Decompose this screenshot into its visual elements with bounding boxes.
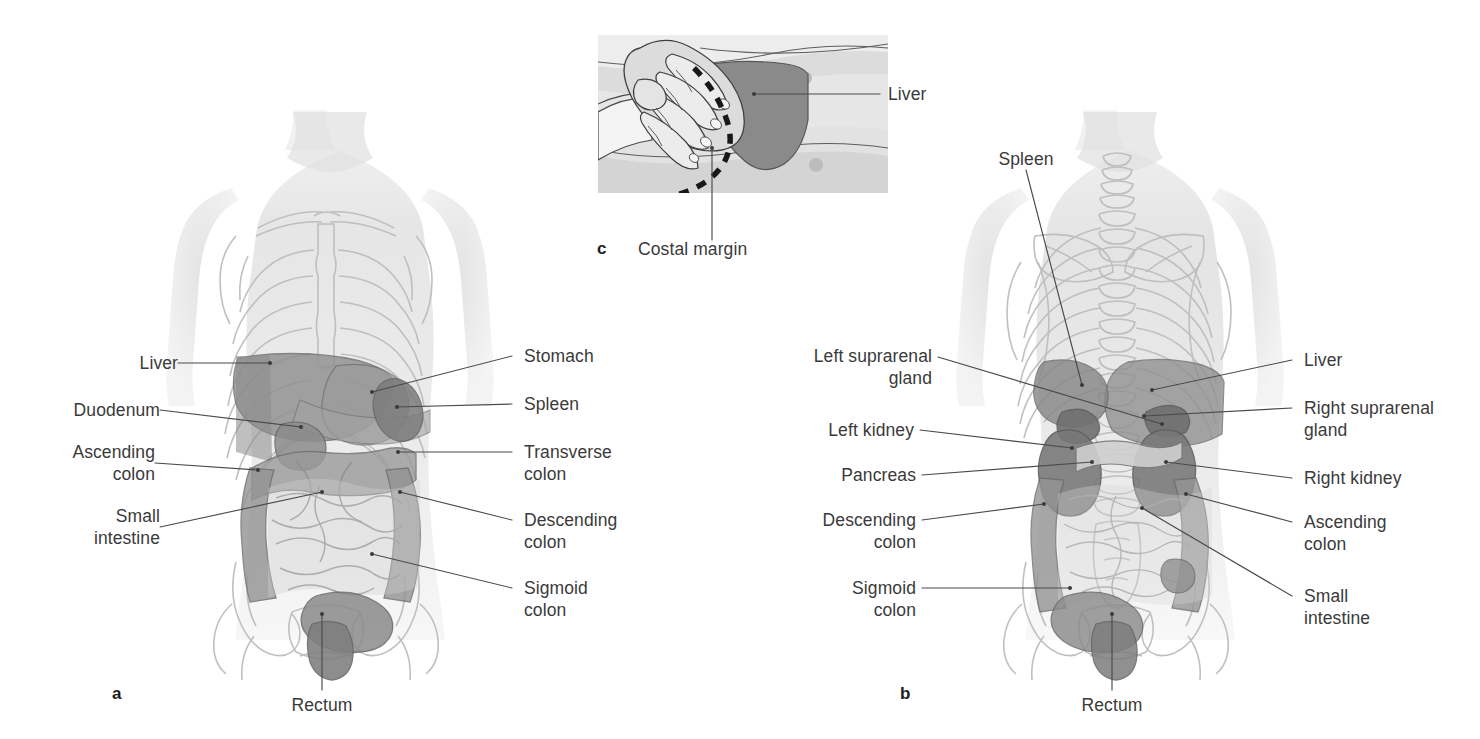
panel-letter-a: a [112,684,121,704]
panel-a-artwork [166,110,493,680]
label-rectum-b: Rectum [1062,694,1162,716]
label-costal-margin-c: Costal margin [638,238,838,260]
label-small-intestine-b: Small intestine [1304,585,1479,629]
panel-letter-c: c [597,239,606,259]
label-descending-colon-a: Descending colon [524,509,704,553]
label-duodenum-a: Duodenum [0,399,160,421]
label-right-kidney-b: Right kidney [1304,467,1479,489]
label-descending-colon-b: Descending colon [716,509,916,553]
label-pancreas-b: Pancreas [716,464,916,486]
label-rectum-a: Rectum [272,694,372,716]
label-sigmoid-colon-b: Sigmoid colon [716,577,916,621]
label-ascending-colon-b: Ascending colon [1304,511,1479,555]
panel-c-artwork [598,35,888,196]
label-liver-a: Liver [58,352,178,374]
panel-b-artwork [956,110,1283,680]
label-liver-b: Liver [1304,349,1474,371]
label-small-intestine-a: Small intestine [0,505,160,549]
label-left-suprarenal-gland-b: Left suprarenal gland [732,345,932,389]
label-spleen-b: Spleen [966,148,1086,170]
anatomy-figure: Liver Duodenum Ascending colon Small int… [0,0,1480,739]
label-right-suprarenal-gland-b: Right suprarenal gland [1304,397,1479,441]
label-sigmoid-colon-a: Sigmoid colon [524,577,694,621]
label-left-kidney-b: Left kidney [714,419,914,441]
label-stomach-a: Stomach [524,345,684,367]
label-liver-c: Liver [888,83,1008,105]
label-ascending-colon-a: Ascending colon [0,441,155,485]
panel-letter-b: b [900,684,910,704]
label-spleen-a: Spleen [524,393,684,415]
label-transverse-colon-a: Transverse colon [524,441,694,485]
